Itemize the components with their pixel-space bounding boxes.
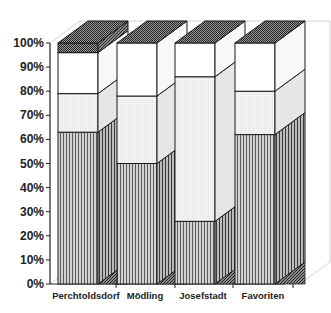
bar-segment [235, 43, 275, 91]
y-tick-label: 30% [20, 205, 44, 219]
bar-segment [117, 96, 157, 163]
bar-segment [175, 77, 215, 222]
y-tick-label: 20% [20, 229, 44, 243]
y-tick-label: 50% [20, 157, 44, 171]
y-tick-label: 40% [20, 181, 44, 195]
y-tick-label: 90% [20, 60, 44, 74]
bar-favoriten [235, 21, 305, 288]
bar-segment [117, 164, 157, 285]
bars [58, 21, 305, 288]
y-tick-label: 80% [20, 84, 44, 98]
bar-segment [175, 43, 215, 77]
stacked-bar-chart: 0%10%20%30%40%50%60%70%80%90%100% Percht… [0, 0, 331, 313]
bar-segment [58, 43, 98, 53]
x-category-label: Mödling [127, 290, 164, 301]
x-category-label: Josefstadt [179, 290, 227, 301]
x-category-label: Favoriten [242, 290, 285, 301]
bar-segment [175, 221, 215, 284]
bar-segment [117, 43, 157, 96]
bar-segment [58, 94, 98, 133]
bar-segment [58, 53, 98, 94]
x-axis-labels: PerchtoldsdorfMödlingJosefstadtFavoriten [52, 290, 284, 301]
y-tick-label: 100% [13, 36, 44, 50]
bar-segment [235, 135, 275, 284]
y-tick-label: 10% [20, 253, 44, 267]
bar-segment [58, 132, 98, 284]
y-tick-label: 70% [20, 108, 44, 122]
y-tick-label: 0% [27, 277, 45, 291]
y-tick-label: 60% [20, 132, 44, 146]
x-category-label: Perchtoldsdorf [52, 290, 120, 301]
bar-segment [235, 91, 275, 134]
